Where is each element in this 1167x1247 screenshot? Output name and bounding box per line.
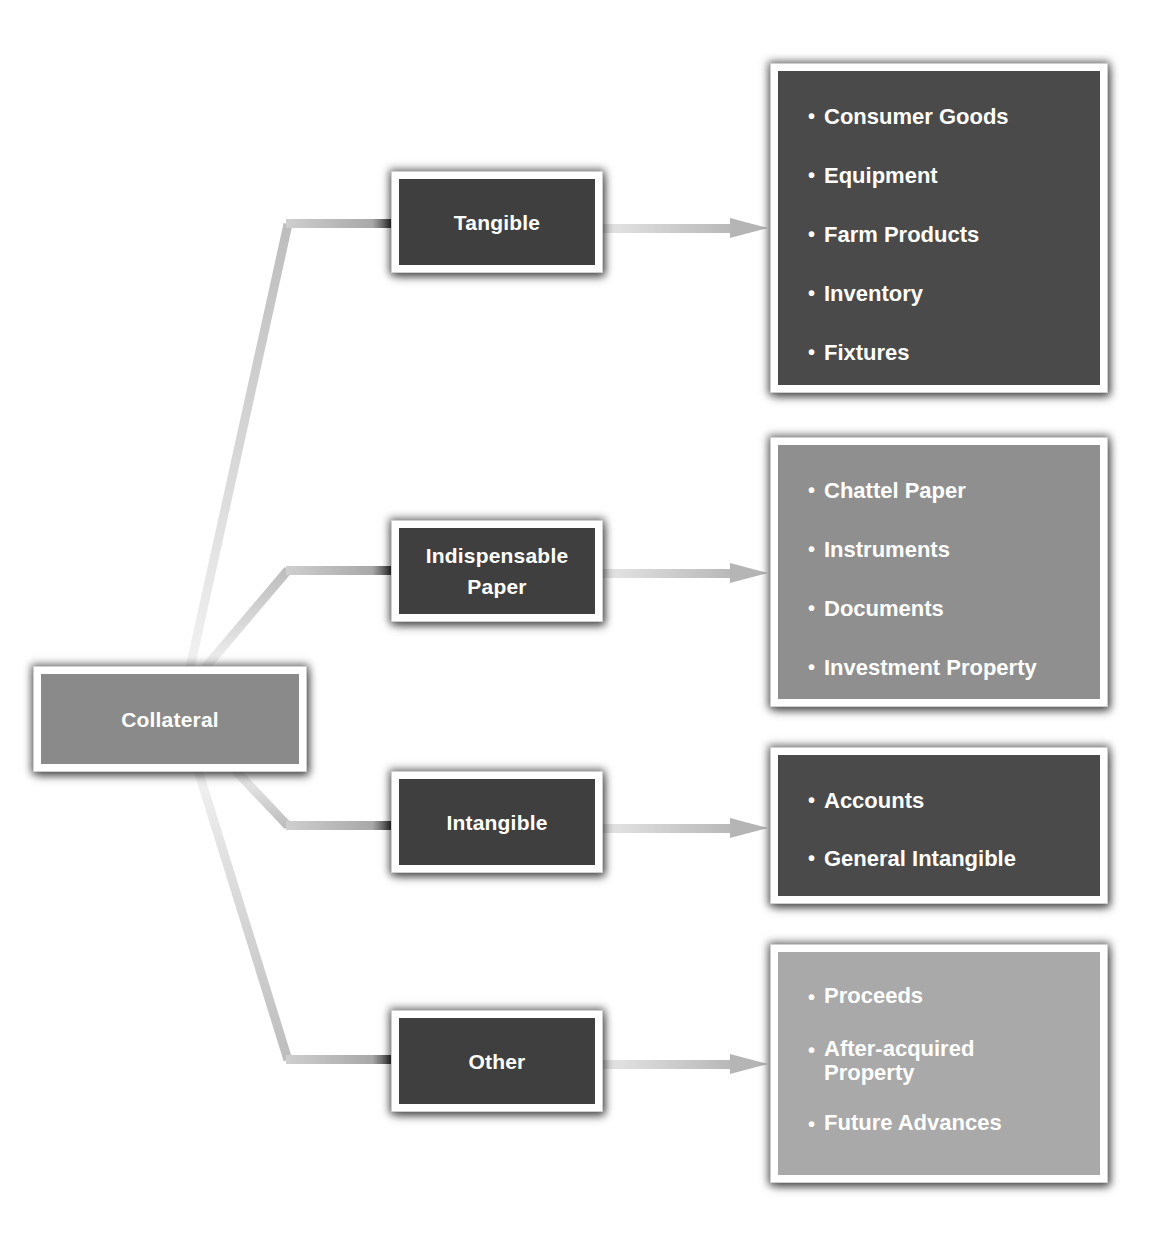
category-node-tangible: Tangible	[392, 172, 602, 272]
bullet-icon: •	[808, 103, 824, 130]
bullet-icon: •	[808, 339, 824, 366]
items-box-intangible: •Accounts •General Intangible	[771, 748, 1107, 903]
list-item: •Accounts	[808, 787, 1090, 814]
bullet-icon: •	[808, 654, 824, 681]
list-item: •Instruments	[808, 536, 1090, 563]
items-box-other: •Proceeds •After-acquired Property •Futu…	[771, 945, 1107, 1182]
bullet-icon: •	[808, 845, 824, 872]
bullet-icon: •	[808, 280, 824, 307]
bullet-icon: •	[808, 162, 824, 189]
items-box-indispensable-paper: •Chattel Paper •Instruments •Documents •…	[771, 438, 1107, 706]
bullet-icon: •	[808, 477, 824, 504]
root-node-label: Collateral	[121, 704, 219, 735]
list-item: •General Intangible	[808, 845, 1090, 872]
arrow-intangible	[602, 818, 768, 838]
bullet-icon: •	[808, 221, 824, 248]
bullet-icon: •	[808, 1037, 824, 1064]
bullet-icon: •	[808, 787, 824, 814]
list-item: •Farm Products	[808, 221, 1090, 248]
bullet-icon: •	[808, 595, 824, 622]
arrow-tangible	[602, 218, 768, 238]
connector-indispensable-paper	[205, 566, 394, 668]
items-box-tangible: •Consumer Goods •Equipment •Farm Product…	[771, 64, 1107, 392]
category-label: Intangible	[446, 807, 547, 838]
category-label: Indispensable Paper	[426, 540, 569, 602]
items-list: •Accounts •General Intangible	[808, 787, 1090, 872]
list-item: •Documents	[808, 595, 1090, 622]
category-node-indispensable-paper: Indispensable Paper	[392, 521, 602, 621]
bullet-icon: •	[808, 1111, 824, 1138]
list-item: •Future Advances	[808, 1111, 1090, 1138]
connector-tangible	[190, 219, 394, 668]
arrow-other	[602, 1054, 768, 1074]
list-item: •After-acquired Property	[808, 1037, 1090, 1085]
arrow-indispensable-paper	[602, 563, 768, 583]
category-label: Other	[468, 1046, 525, 1077]
items-list: •Proceeds •After-acquired Property •Futu…	[808, 984, 1090, 1138]
category-node-other: Other	[392, 1011, 602, 1111]
list-item: •Investment Property	[808, 654, 1090, 681]
list-item: •Fixtures	[808, 339, 1090, 366]
category-node-intangible: Intangible	[392, 772, 602, 872]
connector-intangible	[235, 770, 394, 830]
list-item: •Proceeds	[808, 984, 1090, 1011]
connector-other	[198, 770, 394, 1064]
list-item: •Chattel Paper	[808, 477, 1090, 504]
items-list: •Consumer Goods •Equipment •Farm Product…	[808, 103, 1090, 366]
bullet-icon: •	[808, 536, 824, 563]
list-item: •Inventory	[808, 280, 1090, 307]
root-node-collateral: Collateral	[34, 667, 306, 771]
items-list: •Chattel Paper •Instruments •Documents •…	[808, 477, 1090, 681]
bullet-icon: •	[808, 984, 824, 1011]
list-item: •Equipment	[808, 162, 1090, 189]
category-label: Tangible	[454, 207, 540, 238]
list-item: •Consumer Goods	[808, 103, 1090, 130]
